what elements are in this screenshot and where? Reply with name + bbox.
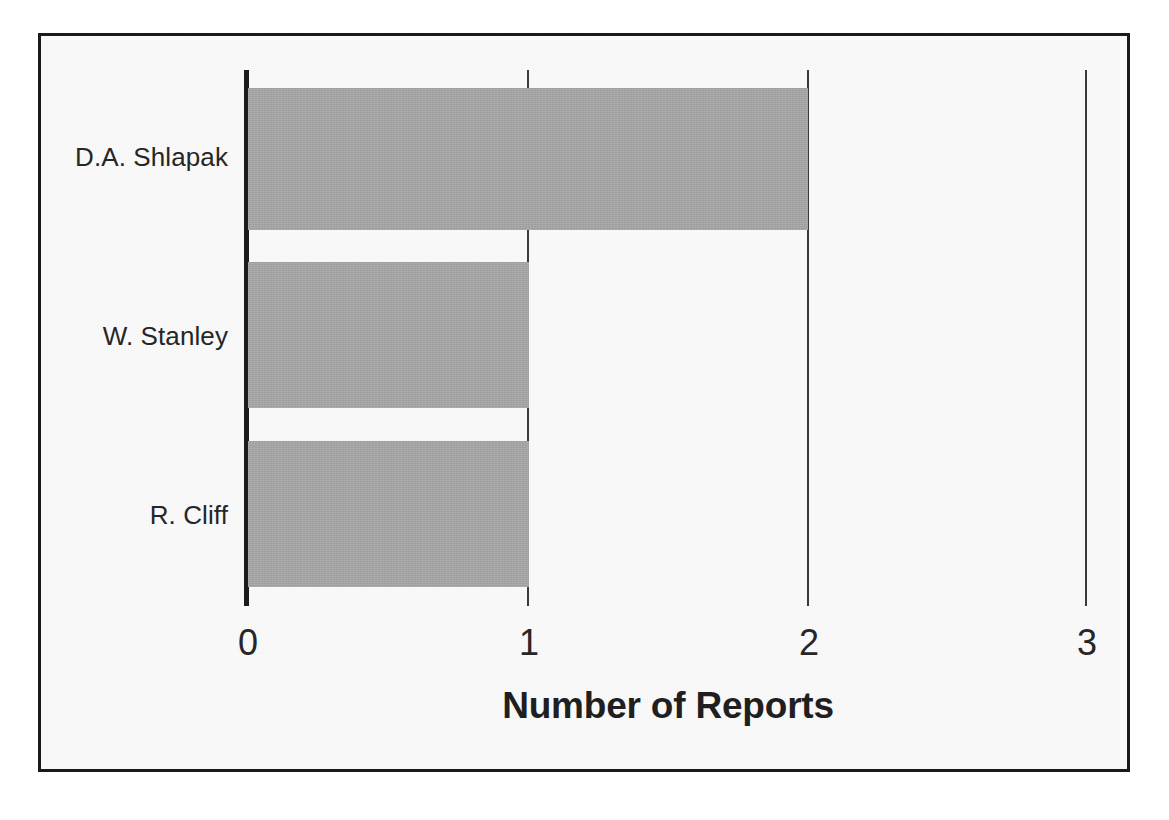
category-label-r-cliff: R. Cliff (150, 500, 228, 531)
xtick-label-1: 1 (494, 622, 564, 664)
xtick-label-0: 0 (213, 622, 283, 664)
category-label-w-stanley: W. Stanley (103, 321, 228, 352)
gridline-3 (1085, 70, 1087, 606)
bar-w-stanley[interactable] (248, 262, 529, 408)
category-label-d-a-shlapak: D.A. Shlapak (75, 142, 228, 173)
bar-r-cliff[interactable] (248, 441, 529, 587)
x-axis-title: Number of Reports (248, 685, 1088, 727)
chart-page: D.A. Shlapak W. Stanley R. Cliff 0 1 2 3… (0, 0, 1169, 820)
xtick-label-2: 2 (774, 622, 844, 664)
xtick-label-3: 3 (1052, 622, 1122, 664)
bar-d-a-shlapak[interactable] (248, 88, 808, 230)
plot-area: D.A. Shlapak W. Stanley R. Cliff 0 1 2 3… (0, 0, 1169, 820)
